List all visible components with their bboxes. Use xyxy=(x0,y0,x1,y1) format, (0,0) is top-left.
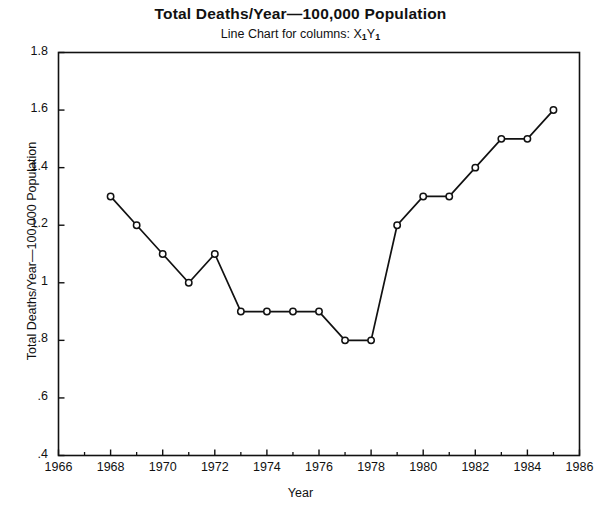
x-tick-label: 1968 xyxy=(87,460,135,474)
data-point-marker xyxy=(133,222,139,228)
y-tick-label: 1.6 xyxy=(8,101,48,115)
y-tick-label: .8 xyxy=(8,331,48,345)
data-point-marker xyxy=(212,251,218,257)
data-point-marker xyxy=(446,193,452,199)
data-point-marker xyxy=(316,308,322,314)
data-point-marker xyxy=(524,136,530,142)
data-point-marker xyxy=(186,280,192,286)
x-tick-label: 1974 xyxy=(243,460,291,474)
data-points xyxy=(107,107,556,344)
x-tick-label: 1986 xyxy=(556,460,601,474)
data-point-marker xyxy=(342,337,348,343)
x-tick-label: 1972 xyxy=(191,460,239,474)
y-axis-ticks xyxy=(59,53,65,456)
y-tick-label: .4 xyxy=(8,447,48,461)
axis-frame xyxy=(59,53,580,456)
data-point-marker xyxy=(550,107,556,113)
y-tick-label: 1.2 xyxy=(8,216,48,230)
data-point-marker xyxy=(368,337,374,343)
x-tick-label: 1984 xyxy=(503,460,551,474)
data-line xyxy=(111,110,554,340)
x-tick-label: 1978 xyxy=(347,460,395,474)
data-point-marker xyxy=(238,308,244,314)
data-point-marker xyxy=(394,222,400,228)
data-point-marker xyxy=(160,251,166,257)
data-point-marker xyxy=(420,193,426,199)
plot-area xyxy=(0,0,601,512)
x-tick-label: 1980 xyxy=(399,460,447,474)
y-tick-label: .6 xyxy=(8,389,48,403)
x-tick-label: 1966 xyxy=(35,460,83,474)
data-point-marker xyxy=(498,136,504,142)
line-chart: Total Deaths/Year—100,000 Population Lin… xyxy=(0,0,601,512)
data-point-marker xyxy=(290,308,296,314)
x-axis-ticks xyxy=(59,450,580,456)
x-tick-label: 1970 xyxy=(139,460,187,474)
x-tick-label: 1976 xyxy=(295,460,343,474)
series-line xyxy=(111,110,554,340)
data-point-marker xyxy=(107,193,113,199)
y-tick-label: 1.4 xyxy=(8,159,48,173)
y-tick-label: 1 xyxy=(8,274,48,288)
data-point-marker xyxy=(472,164,478,170)
x-tick-label: 1982 xyxy=(451,460,499,474)
y-tick-label: 1.8 xyxy=(8,44,48,58)
data-point-marker xyxy=(264,308,270,314)
